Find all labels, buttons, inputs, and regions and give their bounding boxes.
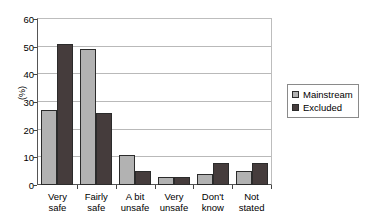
bar-mainstream <box>236 171 252 185</box>
x-axis-label: A bit unsafe <box>116 191 155 213</box>
x-axis-label: Very safe <box>38 191 77 213</box>
y-axis-tick-label: 0 <box>8 180 34 191</box>
y-axis-tick-mark <box>33 74 37 75</box>
legend-label-mainstream: Mainstream <box>303 89 353 100</box>
x-axis-label: Not stated <box>232 191 271 213</box>
y-axis-tick-label: 50 <box>8 41 34 52</box>
bar-excluded <box>57 44 73 185</box>
legend-item-excluded: Excluded <box>292 101 353 114</box>
bar-mainstream <box>119 155 135 185</box>
y-axis-tick-label: 60 <box>8 14 34 25</box>
x-axis-tick-mark <box>77 185 78 189</box>
x-axis-label: Very unsafe <box>155 191 194 213</box>
bars-layer <box>38 19 271 185</box>
x-axis-tick-mark <box>155 185 156 189</box>
bar-excluded <box>213 163 229 185</box>
bar-mainstream <box>80 49 96 185</box>
legend-swatch-mainstream <box>292 91 299 98</box>
x-axis-tick-mark <box>116 185 117 189</box>
y-axis-tick-mark <box>33 19 37 20</box>
bar-mainstream <box>197 174 213 185</box>
bar-mainstream <box>158 177 174 185</box>
x-axis-tick-mark <box>193 185 194 189</box>
bar-mainstream <box>41 110 57 185</box>
x-axis-label: Don't know <box>193 191 232 213</box>
bar-chart: (%) 0102030405060 Very safeFairly safeA … <box>0 0 377 224</box>
x-axis-tick-mark <box>271 185 272 189</box>
legend-label-excluded: Excluded <box>303 102 342 113</box>
bar-excluded <box>174 177 190 185</box>
x-axis-label: Fairly safe <box>77 191 116 213</box>
y-axis-tick-label: 40 <box>8 69 34 80</box>
y-axis-tick-mark <box>33 185 37 186</box>
chart-legend: Mainstream Excluded <box>287 84 359 118</box>
y-axis-tick-label: 30 <box>8 97 34 108</box>
x-axis-tick-mark <box>232 185 233 189</box>
legend-item-mainstream: Mainstream <box>292 88 353 101</box>
bar-excluded <box>135 171 151 185</box>
y-axis-tick-mark <box>33 130 37 131</box>
legend-swatch-excluded <box>292 104 299 111</box>
y-axis-tick-label: 10 <box>8 152 34 163</box>
y-axis-tick-mark <box>33 102 37 103</box>
bar-excluded <box>252 163 268 185</box>
bar-excluded <box>96 113 112 185</box>
y-axis-tick-mark <box>33 157 37 158</box>
y-axis-tick-mark <box>33 47 37 48</box>
y-axis-tick-label: 20 <box>8 124 34 135</box>
